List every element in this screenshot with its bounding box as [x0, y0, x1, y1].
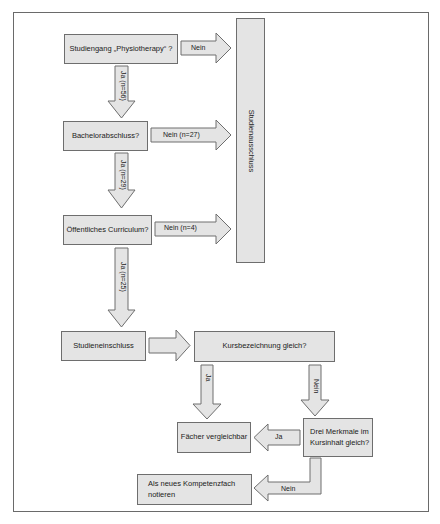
node-bachelor-question: Bachelorabschluss? — [63, 121, 148, 151]
node-exclusion-label: Studienausschluss — [246, 109, 255, 172]
node-course-name-question: Kursbezeichnung gleich? — [194, 331, 335, 362]
arrow-program-no — [181, 33, 231, 63]
node-comparable: Fächer vergleichbar — [177, 422, 251, 453]
label-course-name-no: Nein — [313, 379, 320, 393]
label-program-no: Nein — [191, 44, 205, 51]
label-features-no: Nein — [281, 485, 295, 492]
node-program-question: Studiengang „Physiotherapy“ ? — [64, 34, 178, 64]
label-program-yes: Ja (n=56) — [120, 71, 127, 101]
label-features-yes: Ja — [275, 433, 282, 440]
arrow-inclusion-to-course — [149, 330, 190, 361]
label-course-name-yes: Ja — [205, 374, 212, 381]
label-bachelor-yes: Ja (n=29) — [120, 160, 127, 190]
label-curriculum-yes: Ja (n=25) — [120, 262, 127, 292]
node-exclusion: Studienausschluss — [236, 18, 265, 263]
label-bachelor-no: Nein (n=27) — [163, 131, 200, 138]
node-inclusion: Studieneinschluss — [61, 331, 146, 361]
label-curriculum-no: Nein (n=4) — [164, 224, 197, 231]
arrow-features-no — [254, 458, 321, 501]
node-curriculum-question: Öffentliches Curriculum? — [63, 215, 152, 245]
node-three-features-question: Drei Merkmale im Kursinhalt gleich? — [303, 418, 373, 457]
node-new-competency: Als neues Kompetenzfach notieren — [137, 474, 252, 505]
